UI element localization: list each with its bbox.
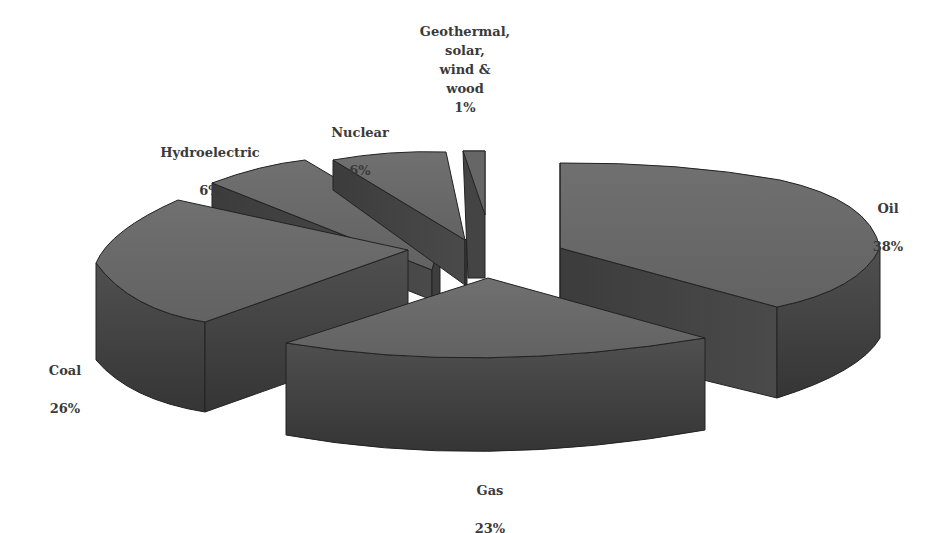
label-hydroelectric-pct: 6%: [145, 181, 275, 200]
label-gas-pct: 23%: [460, 519, 520, 533]
label-hydroelectric-name: Hydroelectric: [145, 143, 275, 162]
label-coal-pct: 26%: [35, 399, 95, 418]
label-gas: Gas 23%: [460, 462, 520, 533]
label-nuclear: Nuclear 6%: [320, 104, 400, 199]
label-renewables-pct: 1%: [415, 98, 515, 117]
label-coal: Coal 26%: [35, 342, 95, 437]
label-renewables: Geothermal, solar, wind & wood 1%: [415, 3, 515, 136]
label-coal-name: Coal: [35, 361, 95, 380]
label-oil: Oil 38%: [858, 180, 918, 275]
label-nuclear-pct: 6%: [320, 161, 400, 180]
label-gas-name: Gas: [460, 481, 520, 500]
label-oil-name: Oil: [858, 199, 918, 218]
label-nuclear-name: Nuclear: [320, 123, 400, 142]
label-renewables-name: Geothermal, solar, wind & wood: [420, 24, 510, 96]
label-hydroelectric: Hydroelectric 6%: [145, 124, 275, 219]
label-oil-pct: 38%: [858, 237, 918, 256]
